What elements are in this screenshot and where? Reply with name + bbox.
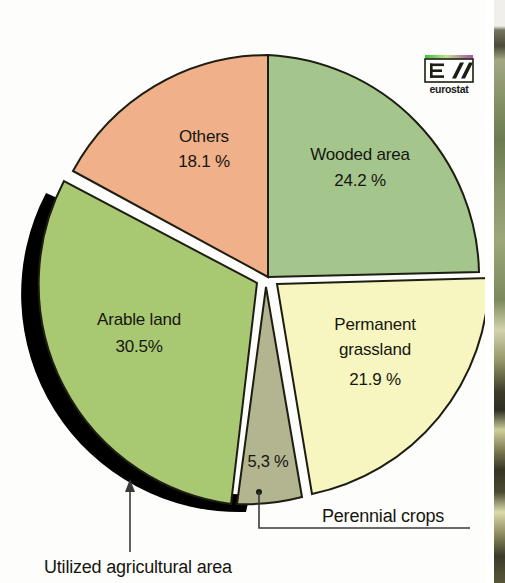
eurostat-logo-gradient-bar [425, 55, 473, 59]
slice-label-permanent-grassland-value: 21.9 % [349, 370, 401, 389]
edge-photo-strip [494, 0, 505, 583]
callout-label-perennial-crops: Perennial crops [322, 506, 444, 526]
eurostat-logo-e-stem [430, 64, 433, 78]
slice-label-permanent-grassland-name-2: grassland [339, 340, 411, 359]
slice-label-wooded-area-value: 24.2 % [334, 171, 386, 190]
photo-strip-gap [485, 0, 494, 583]
slice-label-others-value: 18.1 % [178, 152, 230, 171]
eurostat-logo-wordmark: eurostat [429, 83, 469, 95]
slice-label-permanent-grassland-name-1: Permanent [334, 315, 416, 334]
slice-label-arable-land-name: Arable land [97, 310, 181, 329]
slice-label-arable-land-value: 30.5% [115, 337, 162, 356]
callout-label-utilized-agricultural-area: Utilized agricultural area [44, 557, 233, 577]
chart-page: Others 18.1 % Wooded area 24.2 % Permane… [0, 0, 505, 583]
slice-label-perennial-crops-value: 5,3 % [247, 452, 289, 470]
pie-chart: Others 18.1 % Wooded area 24.2 % Permane… [0, 0, 505, 583]
eurostat-logo: eurostat [425, 55, 473, 95]
slice-label-wooded-area-name: Wooded area [310, 145, 410, 164]
slice-label-others-name: Others [179, 127, 229, 146]
